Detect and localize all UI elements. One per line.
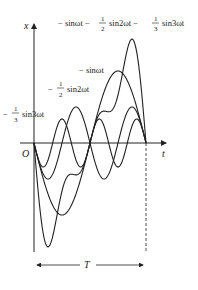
sin3-curve-label: − 1 3 sin3ωt: [3, 105, 45, 124]
sum-curve-label: − sinωt − 1 2 sin2ωt − 1 3 sin3ωt: [58, 15, 185, 33]
fourier-diagram: x t O T − sinωt − 1 2 sin2ωt − 1 3 sin3ω…: [0, 0, 198, 290]
svg-text:2: 2: [59, 91, 63, 99]
svg-text:1: 1: [14, 105, 18, 113]
svg-text:1: 1: [101, 15, 105, 23]
sin1-curve-label: − sinωt: [79, 65, 104, 75]
origin-label: O: [22, 148, 29, 159]
svg-text:−: −: [48, 84, 53, 94]
y-axis-label: x: [23, 20, 29, 31]
svg-text:3: 3: [14, 116, 18, 124]
sin2-curve-label: − 1 2 sin2ωt: [48, 80, 90, 99]
svg-text:−: −: [3, 109, 8, 119]
period-label: T: [84, 259, 91, 270]
svg-text:sin2ωt −: sin2ωt −: [109, 18, 138, 28]
svg-text:sin2ωt: sin2ωt: [67, 84, 90, 94]
svg-text:sin3ωt: sin3ωt: [162, 18, 185, 28]
svg-text:sin3ωt: sin3ωt: [22, 109, 45, 119]
svg-text:2: 2: [101, 25, 105, 33]
x-axis-label: t: [162, 148, 165, 159]
svg-text:− sinωt −: − sinωt −: [58, 18, 90, 28]
svg-text:1: 1: [59, 80, 63, 88]
svg-text:1: 1: [154, 15, 158, 23]
svg-text:3: 3: [154, 25, 158, 33]
